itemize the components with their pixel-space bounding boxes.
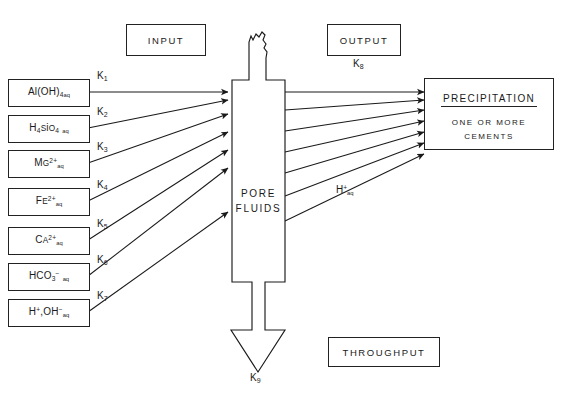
rate-label-k9: K9 (250, 372, 261, 384)
figure-canvas: Al(OH)4aq H4SiO4 aq MG2+aq FE2+aq CA2+aq… (0, 0, 562, 396)
pore-fluids-label: PORE FLUIDS (232, 186, 285, 216)
output-arrow-4 (285, 121, 424, 152)
input-formula-calcium: CA2+aq (35, 235, 62, 247)
pore-fluids-line-2: FLUIDS (232, 201, 285, 216)
input-arrow-2 (88, 100, 228, 128)
input-box-al-hydroxide[interactable]: Al(OH)4aq (8, 79, 90, 107)
output-arrow-5 (285, 132, 424, 173)
input-caption-box: INPUT (126, 24, 206, 56)
precipitation-line-2: CEMENTS (425, 132, 553, 141)
input-arrow-3 (88, 114, 228, 163)
input-box-silicic-acid[interactable]: H4SiO4 aq (8, 115, 90, 143)
output-caption-box: OUTPUT (327, 24, 401, 56)
input-box-bicarbonate[interactable]: HCO3− aq (8, 263, 90, 291)
input-formula-magnesium: MG2+aq (34, 158, 63, 170)
input-formula-silicic-acid: H4SiO4 aq (29, 123, 68, 135)
input-formula-bicarbonate: HCO3− aq (29, 271, 69, 283)
rate-label-k3: K3 (97, 141, 108, 153)
input-box-calcium[interactable]: CA2+aq (8, 227, 90, 255)
output-arrow-group (285, 92, 424, 221)
input-box-iron-two[interactable]: FE2+aq (8, 188, 90, 216)
rate-label-k5: K5 (97, 218, 108, 230)
rate-label-k8: K8 (353, 58, 364, 70)
precipitation-box[interactable]: PRECIPITATION ONE OR MORE CEMENTS (424, 78, 554, 150)
throughput-caption-label: THROUGHPUT (342, 347, 425, 358)
input-box-magnesium[interactable]: MG2+aq (8, 150, 90, 178)
output-caption-label: OUTPUT (340, 35, 389, 46)
rate-label-k2: K2 (97, 106, 108, 118)
input-formula-al-hydroxide: Al(OH)4aq (28, 87, 70, 99)
output-arrow-3 (285, 110, 424, 131)
input-arrow-4 (88, 132, 228, 201)
rate-label-k6: K6 (97, 254, 108, 266)
precipitation-line-1: ONE OR MORE (425, 118, 553, 127)
input-caption-label: INPUT (148, 35, 185, 46)
throughput-caption-box: THROUGHPUT (328, 337, 440, 367)
input-arrow-group (88, 92, 228, 312)
input-formula-proton-hydroxide: H+,OH−aq (29, 307, 69, 319)
input-arrow-6 (88, 168, 228, 276)
proton-output-label: H+aq (336, 184, 354, 196)
rate-label-k4: K4 (97, 179, 108, 191)
precipitation-title: PRECIPITATION (441, 93, 537, 107)
rate-label-k1: K1 (97, 70, 108, 82)
input-formula-iron-two: FE2+aq (36, 196, 62, 208)
rate-label-k7: K7 (97, 290, 108, 302)
pore-fluids-line-1: PORE (232, 186, 285, 201)
input-box-proton-hydroxide[interactable]: H+,OH−aq (8, 299, 90, 327)
output-arrow-2 (285, 100, 424, 110)
